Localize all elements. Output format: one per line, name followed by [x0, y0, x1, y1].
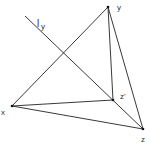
- label-x: x: [1, 108, 5, 117]
- vertex-z: [142, 128, 145, 131]
- vertex-x: [11, 105, 14, 108]
- vertex-y: [107, 6, 110, 9]
- edge-x-y: [12, 7, 108, 106]
- line-l-y: [25, 16, 143, 129]
- label-l: l: [37, 18, 39, 29]
- edge-x-z: [12, 106, 143, 129]
- label-l-subscript: y: [41, 22, 45, 31]
- triangle-diagram: l y y x z z': [0, 0, 150, 143]
- vertex-zprime: [112, 99, 115, 102]
- label-y: y: [117, 3, 121, 12]
- label-z: z: [141, 135, 145, 143]
- edge-y-z: [108, 7, 143, 129]
- edge-x-zprime: [12, 100, 113, 106]
- label-z-prime: z': [120, 92, 126, 101]
